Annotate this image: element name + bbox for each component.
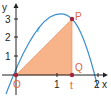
triangle-opq: [16, 19, 72, 75]
point-origin: [14, 73, 18, 77]
function-diagram: 1 2 3 1 2 x y f O P Q t: [0, 0, 111, 97]
point-p-label: P: [75, 11, 82, 22]
origin-label: O: [13, 79, 21, 90]
x-axis-arrow-icon: [103, 73, 108, 78]
point-p: [70, 17, 74, 21]
t-label: t: [70, 80, 73, 91]
y-tick-label-3: 3: [5, 14, 11, 25]
point-q: [70, 73, 74, 77]
x-tick-label-1: 1: [54, 79, 60, 90]
x-axis-label: x: [102, 79, 107, 90]
y-axis-arrow-icon: [14, 3, 19, 8]
y-tick-label-1: 1: [5, 51, 11, 62]
x-tick-label-2: 2: [94, 79, 100, 90]
point-q-label: Q: [75, 62, 83, 73]
y-tick-label-2: 2: [5, 32, 11, 43]
y-axis-label: y: [2, 2, 7, 13]
